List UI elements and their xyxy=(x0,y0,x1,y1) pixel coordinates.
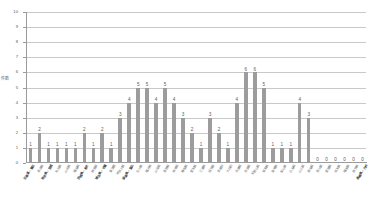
bar xyxy=(289,148,293,163)
bar-value-label: 6 xyxy=(245,67,248,72)
bar xyxy=(127,103,131,163)
y-axis-tick-label: 5 xyxy=(0,86,18,90)
bar-value-label: 5 xyxy=(164,82,167,87)
bar-slot: 3 xyxy=(116,12,125,163)
bar-value-label: 3 xyxy=(119,112,122,117)
bar xyxy=(145,88,149,164)
bar-value-label: 4 xyxy=(236,97,239,102)
bar-value-label: 1 xyxy=(271,142,274,147)
bar xyxy=(118,118,122,163)
bar-slot: 4 xyxy=(232,12,241,163)
bar-slot: 1 xyxy=(223,12,232,163)
bar xyxy=(136,88,140,164)
bar-value-label: 1 xyxy=(29,142,32,147)
bar xyxy=(100,133,104,163)
bar xyxy=(74,148,78,163)
bar-value-label: 1 xyxy=(65,142,68,147)
bar-value-label: 3 xyxy=(182,112,185,117)
bar-value-label: 1 xyxy=(56,142,59,147)
bar-slot: 4 xyxy=(125,12,134,163)
y-axis-tick-label: 7 xyxy=(0,55,18,59)
bar xyxy=(280,148,284,163)
bar-value-label: 5 xyxy=(263,82,266,87)
y-axis-tick-label: 4 xyxy=(0,101,18,105)
bar-value-label: 2 xyxy=(218,127,221,132)
bar xyxy=(199,148,203,163)
bar-value-label: 1 xyxy=(74,142,77,147)
bar-value-label: 1 xyxy=(92,142,95,147)
bar-chart: 件数 012345678910 121111212134554543213214… xyxy=(0,0,375,210)
bar xyxy=(307,118,311,163)
bar-slot: 2 xyxy=(98,12,107,163)
bar-slot: 5 xyxy=(134,12,143,163)
bar-slot: 1 xyxy=(286,12,295,163)
bar xyxy=(83,133,87,163)
bar xyxy=(226,148,230,163)
bar-value-label: 2 xyxy=(101,127,104,132)
y-axis-tick-label: 0 xyxy=(0,161,18,165)
bar-slot: 1 xyxy=(89,12,98,163)
bar-value-label: 2 xyxy=(38,127,41,132)
bar-slot: 1 xyxy=(62,12,71,163)
bar-slot: 3 xyxy=(304,12,313,163)
bar xyxy=(172,103,176,163)
bar xyxy=(244,72,248,163)
bar-slot: 4 xyxy=(152,12,161,163)
bar xyxy=(253,72,257,163)
bar-slot: 1 xyxy=(53,12,62,163)
bar-slot: 0 xyxy=(349,12,358,163)
y-axis-tick-label: 6 xyxy=(0,70,18,74)
bar-slot: 3 xyxy=(205,12,214,163)
bar xyxy=(190,133,194,163)
bar-slot: 2 xyxy=(80,12,89,163)
bar-slot: 1 xyxy=(277,12,286,163)
y-axis-tick-label: 3 xyxy=(0,116,18,120)
bar-slot: 1 xyxy=(268,12,277,163)
bar-value-label: 1 xyxy=(47,142,50,147)
bar-slot: 4 xyxy=(170,12,179,163)
bar-value-label: 5 xyxy=(146,82,149,87)
bar-slot: 0 xyxy=(313,12,322,163)
bar-value-label: 0 xyxy=(361,157,364,162)
bar xyxy=(217,133,221,163)
bar-series: 12111121213455454321321466511143000000 xyxy=(26,12,367,163)
bar-slot: 4 xyxy=(295,12,304,163)
bar-slot: 1 xyxy=(107,12,116,163)
bar xyxy=(56,148,60,163)
bar-value-label: 1 xyxy=(289,142,292,147)
bar-value-label: 2 xyxy=(83,127,86,132)
bar-slot: 1 xyxy=(44,12,53,163)
bar-value-label: 1 xyxy=(280,142,283,147)
bar xyxy=(163,88,167,164)
bar xyxy=(262,88,266,164)
bar-slot: 5 xyxy=(259,12,268,163)
bar-value-label: 5 xyxy=(137,82,140,87)
bar xyxy=(29,148,33,163)
bar-slot: 1 xyxy=(26,12,35,163)
bar xyxy=(65,148,69,163)
bar-slot: 6 xyxy=(250,12,259,163)
bar-value-label: 3 xyxy=(307,112,310,117)
bar-value-label: 1 xyxy=(227,142,230,147)
bar xyxy=(154,103,158,163)
bar-value-label: 6 xyxy=(254,67,257,72)
bar-slot: 1 xyxy=(197,12,206,163)
bar xyxy=(47,148,51,163)
y-axis-tick-label: 10 xyxy=(0,10,18,14)
bar-value-label: 0 xyxy=(343,157,346,162)
bar-value-label: 0 xyxy=(316,157,319,162)
bar xyxy=(38,133,42,163)
bar-slot: 6 xyxy=(241,12,250,163)
bar xyxy=(298,103,302,163)
y-axis-tick-label: 1 xyxy=(0,146,18,150)
bar-value-label: 0 xyxy=(325,157,328,162)
bar xyxy=(181,118,185,163)
bar xyxy=(109,148,113,163)
y-axis-tick-label: 2 xyxy=(0,131,18,135)
bar xyxy=(208,118,212,163)
bar-value-label: 4 xyxy=(173,97,176,102)
bar xyxy=(271,148,275,163)
bar xyxy=(92,148,96,163)
bar-value-label: 0 xyxy=(334,157,337,162)
bar-value-label: 2 xyxy=(191,127,194,132)
